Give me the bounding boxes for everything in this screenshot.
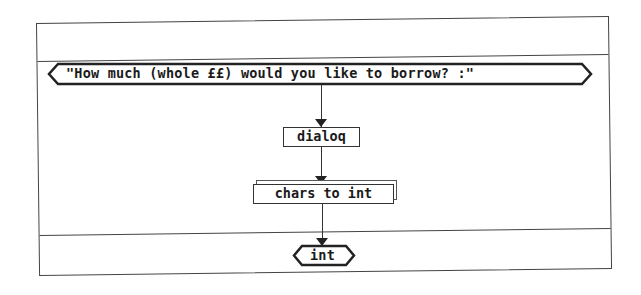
- top-divider: [37, 54, 608, 62]
- node-dialog-label: dialoq: [297, 128, 346, 144]
- node-dialog[interactable]: dialoq: [283, 127, 360, 147]
- output-terminal-label: int: [310, 247, 335, 263]
- node-chars-to-int[interactable]: chars to int: [253, 184, 394, 204]
- arrow-head-icon: [315, 119, 327, 127]
- bottom-divider: [40, 228, 611, 236]
- output-terminal[interactable]: int: [293, 245, 355, 266]
- input-terminal[interactable]: "How much (whole ££) would you like to b…: [48, 63, 592, 85]
- node-chars-to-int-label: chars to int: [275, 185, 373, 201]
- input-terminal-label: "How much (whole ££) would you like to b…: [66, 65, 474, 81]
